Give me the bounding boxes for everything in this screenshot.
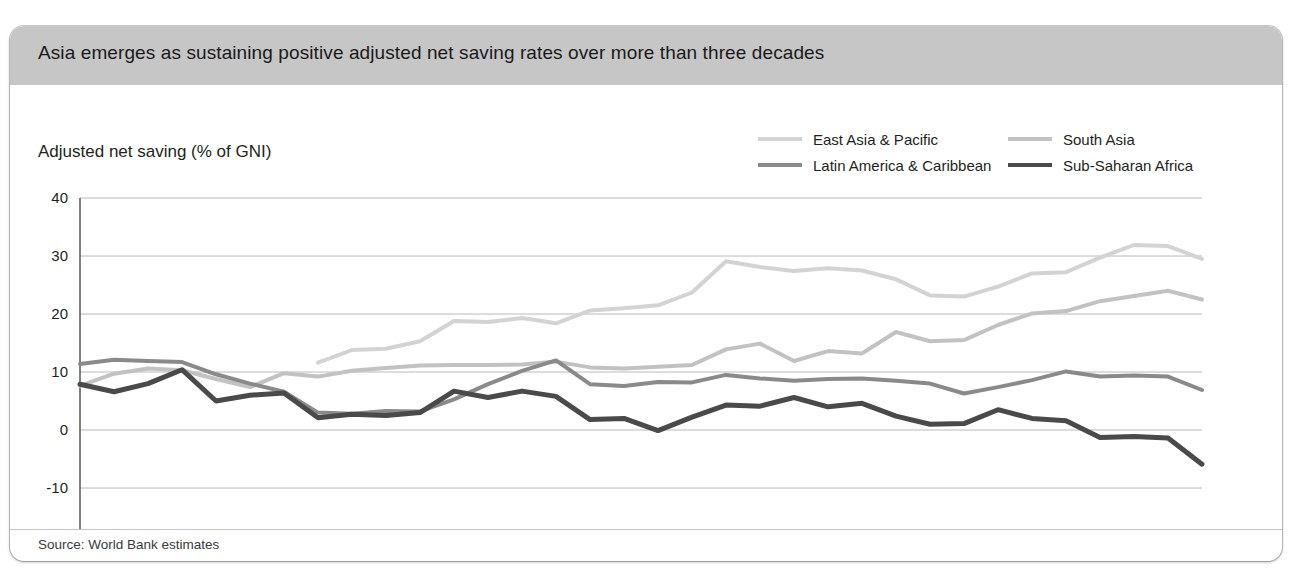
figure-header-band: Asia emerges as sustaining positive adju… xyxy=(10,26,1282,85)
y-tick-label: 20 xyxy=(51,305,68,322)
figure-card: Asia emerges as sustaining positive adju… xyxy=(10,26,1282,561)
y-tick-label: 0 xyxy=(60,421,68,438)
chart-canvas: 403020100-101975197619771978197919801981… xyxy=(10,85,1282,529)
figure-title: Asia emerges as sustaining positive adju… xyxy=(38,42,824,64)
y-tick-label: 40 xyxy=(51,189,68,206)
source-note: Source: World Bank estimates xyxy=(38,537,219,552)
plot-panel: Adjusted net saving (% of GNI) East Asia… xyxy=(10,85,1282,529)
y-tick-label: -10 xyxy=(46,479,68,496)
line-chart-svg: 403020100-101975197619771978197919801981… xyxy=(10,85,1282,529)
y-tick-label: 30 xyxy=(51,247,68,264)
footer-divider xyxy=(10,529,1282,530)
y-tick-label: 10 xyxy=(51,363,68,380)
